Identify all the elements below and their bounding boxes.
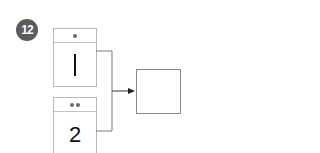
- arrow-head-icon: [128, 88, 135, 94]
- answer-box[interactable]: [136, 69, 181, 114]
